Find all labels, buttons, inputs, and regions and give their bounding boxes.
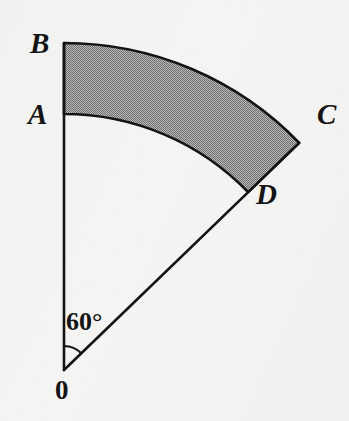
vertex-label-origin: 0: [55, 377, 69, 404]
vertex-label-b: B: [30, 29, 49, 58]
vertex-label-a: A: [28, 100, 47, 129]
annular-sector-diagram: [0, 0, 349, 421]
geometry-figure: B A C D 60° 0: [0, 0, 349, 421]
vertex-label-d: D: [256, 180, 277, 209]
angle-arc-marker: [64, 346, 81, 353]
vertex-label-c: C: [317, 100, 336, 129]
angle-measure-label: 60°: [66, 309, 102, 335]
